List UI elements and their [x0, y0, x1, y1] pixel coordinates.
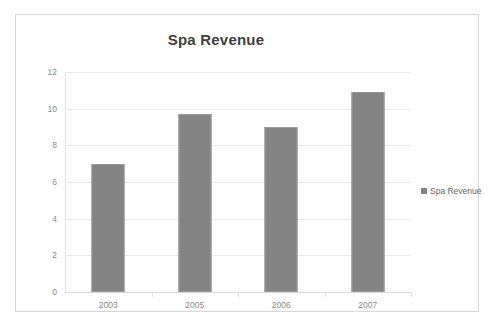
x-axis-tick-label: 2003	[65, 300, 152, 310]
chart-legend: Spa Revenue	[421, 186, 482, 196]
gridline	[65, 292, 411, 293]
chart-screenshot: Spa Revenue 1210864202003200520062007 Sp…	[0, 0, 496, 328]
x-axis-separator	[325, 293, 326, 297]
bar-slot	[65, 72, 152, 292]
x-axis-separator	[411, 293, 412, 297]
bar-slot	[325, 72, 412, 292]
y-axis-tick-label: 10	[27, 104, 57, 114]
legend-item-label: Spa Revenue	[430, 186, 482, 196]
chart-title: Spa Revenue	[16, 31, 416, 48]
square-marker-icon	[421, 188, 427, 194]
bar-slot	[152, 72, 239, 292]
y-axis-tick-label: 12	[27, 67, 57, 77]
x-axis-tick-label: 2006	[238, 300, 325, 310]
y-axis-tick-label: 6	[27, 177, 57, 187]
chart-frame: Spa Revenue 1210864202003200520062007 Sp…	[15, 14, 479, 312]
y-axis-tick-label: 4	[27, 214, 57, 224]
bar-2006[interactable]	[265, 127, 298, 292]
bar-2003[interactable]	[92, 164, 125, 292]
y-axis-tick-label: 8	[27, 140, 57, 150]
y-axis-tick-label: 2	[27, 250, 57, 260]
bar-2007[interactable]	[351, 92, 384, 292]
y-axis-tick-label: 0	[27, 287, 57, 297]
x-axis-separator	[238, 293, 239, 297]
bars-layer	[65, 72, 411, 292]
bar-2005[interactable]	[178, 114, 211, 292]
bar-slot	[238, 72, 325, 292]
x-axis-tick-label: 2005	[152, 300, 239, 310]
x-axis-separator	[152, 293, 153, 297]
x-axis-tick-label: 2007	[325, 300, 412, 310]
